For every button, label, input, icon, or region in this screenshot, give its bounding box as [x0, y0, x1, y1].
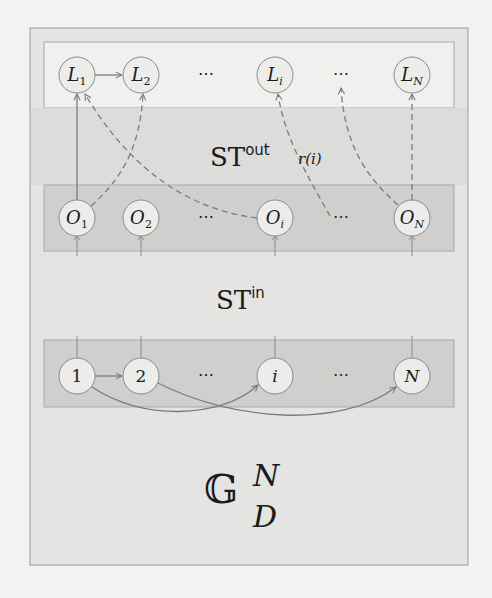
node-label-subscript: 1: [81, 218, 88, 231]
input-layer-band: [44, 340, 454, 407]
node-n2: 2: [123, 358, 159, 394]
diagram-canvas: L1L2⋯Li⋯LNO1O2⋯Oi⋯ON12⋯i⋯N STout r(i) ST…: [0, 0, 492, 598]
graph-superscript: N: [252, 458, 281, 493]
ellipsis-text: ⋯: [333, 207, 349, 226]
node-n1: 1: [59, 358, 95, 394]
ellipsis-ndots1: ⋯: [198, 365, 214, 384]
r-of-i-label: r(i): [298, 150, 322, 168]
node-label: N: [404, 366, 421, 386]
node-L2: L2: [123, 57, 159, 93]
st-in-base: ST: [216, 285, 252, 315]
ellipsis-text: ⋯: [333, 64, 349, 83]
node-Oi: Oi: [257, 200, 293, 236]
st-in-sup: in: [251, 284, 265, 302]
node-label-base: L: [67, 64, 80, 85]
node-label: i: [272, 366, 277, 386]
node-label-base: O: [130, 207, 145, 228]
node-label: 1: [72, 366, 83, 386]
ellipsis-Odots2: ⋯: [333, 207, 349, 226]
st-out-base: ST: [210, 142, 246, 172]
node-label: 2: [136, 366, 147, 386]
ellipsis-Ldots1: ⋯: [198, 64, 214, 83]
node-label-subscript: i: [279, 75, 283, 88]
node-label-base: O: [400, 207, 415, 228]
node-label-subscript: i: [281, 218, 285, 231]
ellipsis-ndots2: ⋯: [333, 365, 349, 384]
ellipsis-text: ⋯: [333, 365, 349, 384]
node-O1: O1: [59, 200, 95, 236]
node-ON: ON: [394, 200, 430, 236]
node-label-base: L: [266, 64, 279, 85]
node-label-subscript: 2: [143, 75, 150, 88]
node-label-base: L: [131, 64, 144, 85]
node-label-subscript: 1: [79, 75, 86, 88]
node-nN: N: [394, 358, 430, 394]
node-O2: O2: [123, 200, 159, 236]
ellipsis-text: ⋯: [198, 64, 214, 83]
node-label-subscript: N: [412, 75, 423, 88]
ordering-layer-band: [44, 185, 454, 251]
node-L1: L1: [59, 57, 95, 93]
node-label-base: O: [66, 207, 81, 228]
ellipsis-text: ⋯: [198, 365, 214, 384]
node-label-subscript: 2: [145, 218, 152, 231]
node-label-base: L: [400, 64, 413, 85]
node-label-base: O: [266, 207, 281, 228]
st-out-sup: out: [245, 141, 270, 159]
ellipsis-text: ⋯: [198, 207, 214, 226]
graph-symbol: 𝔾: [204, 466, 238, 512]
node-ni: i: [257, 358, 293, 394]
graph-subscript: D: [252, 499, 277, 534]
node-LN: LN: [394, 57, 430, 93]
node-label-subscript: N: [414, 218, 425, 231]
ellipsis-Ldots2: ⋯: [333, 64, 349, 83]
node-Li: Li: [257, 57, 293, 93]
ellipsis-Odots1: ⋯: [198, 207, 214, 226]
